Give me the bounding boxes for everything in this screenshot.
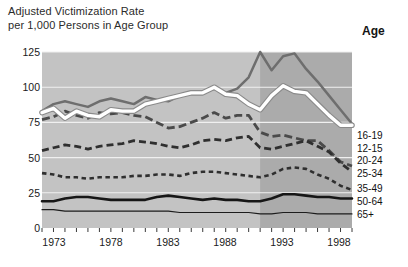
x-axis-ticks (42, 228, 352, 232)
chart-figure: Adjusted Victimization Rate per 1,000 Pe… (0, 0, 408, 267)
plot-bg-shaded-region (260, 52, 352, 228)
plot-background (42, 52, 352, 228)
plot-area (0, 0, 408, 267)
